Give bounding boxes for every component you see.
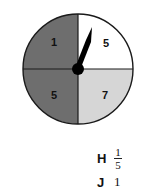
fraction-denominator: 5 xyxy=(115,160,121,170)
choice-letter: H xyxy=(97,151,114,166)
segment-label-top-right: 5 xyxy=(103,37,109,49)
segment-label-bottom-right: 7 xyxy=(102,89,108,101)
spinner-hub xyxy=(72,63,84,75)
fraction-numerator: 1 xyxy=(114,147,122,157)
answer-choice-j[interactable]: J 1 xyxy=(97,174,121,190)
spinner: 1 5 5 7 xyxy=(0,0,145,130)
choice-value: 1 xyxy=(114,174,121,190)
segment-label-top-left: 1 xyxy=(51,36,57,48)
answer-choice-h[interactable]: H 1 5 xyxy=(97,147,122,170)
choice-letter: J xyxy=(97,175,114,190)
segment-label-bottom-left: 5 xyxy=(51,89,57,101)
choice-value-fraction: 1 5 xyxy=(114,147,122,170)
